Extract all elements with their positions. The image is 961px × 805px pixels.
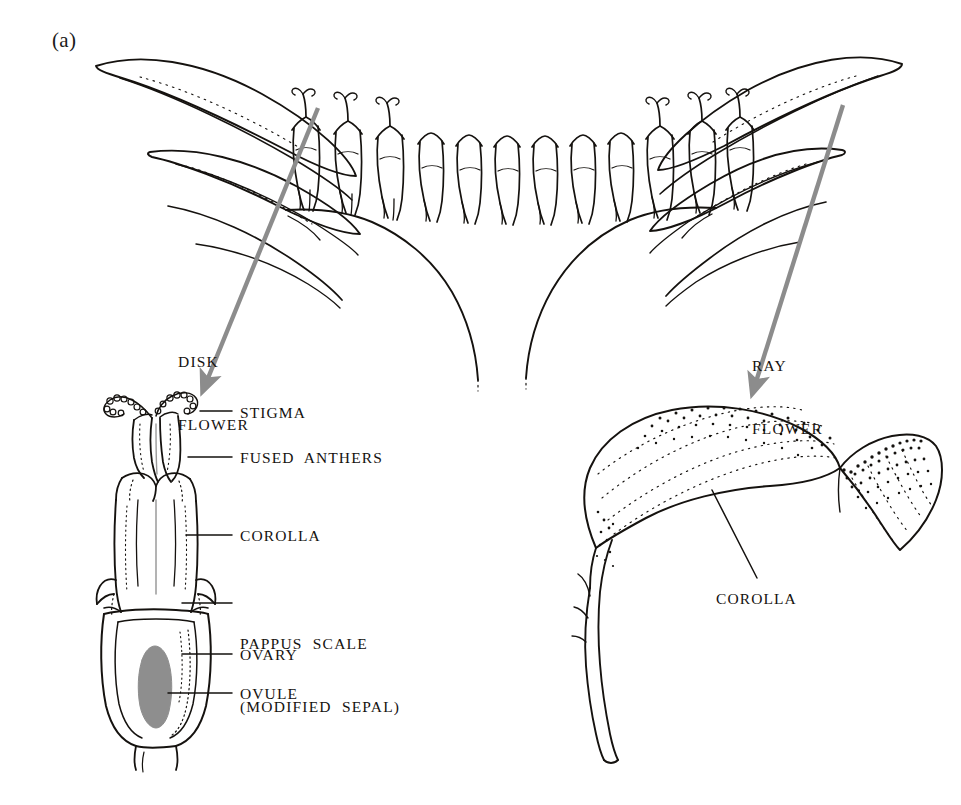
disk-florets-row [292, 88, 754, 225]
detail-peduncle [135, 746, 178, 772]
label-ray-flower-line2: FLOWER [752, 419, 823, 440]
corolla-tube [115, 500, 198, 612]
label-disk-flower-line2: FLOWER [178, 415, 249, 436]
label-disk-flower: DISK FLOWER [178, 310, 249, 477]
leader-corolla-ray [712, 490, 757, 578]
label-corolla-ray: COROLLA [716, 589, 797, 609]
label-pappus-scale: PAPPUS SCALE (MODIFIED SEPAL) [240, 592, 400, 759]
label-stigma: STIGMA [240, 403, 306, 423]
disk-floret-open-4 [646, 97, 674, 220]
label-fused-anthers: FUSED ANTHERS [240, 448, 383, 468]
label-corolla-disk: COROLLA [240, 526, 321, 546]
label-disk-flower-line1: DISK [178, 352, 249, 373]
ovule [138, 646, 171, 728]
panel-letter: (a) [52, 28, 76, 53]
label-ovule: OVULE [240, 684, 298, 704]
pointer-arrow-group [206, 105, 843, 385]
figure-canvas: (a) DISK FLOWER RAY FLOWER STIGMA FUSED … [0, 0, 961, 805]
label-ray-flower: RAY FLOWER [752, 314, 823, 481]
disk-floret-open-5 [688, 92, 716, 215]
receptacle-and-stem [286, 208, 716, 392]
ray-flower-petals-left [96, 59, 360, 308]
label-ray-flower-line1: RAY [752, 356, 823, 377]
fused-anther-tube [133, 412, 181, 482]
disk-floret-closed-group [418, 133, 634, 225]
disk-floret-open-3 [376, 97, 404, 220]
label-ovary: OVARY [240, 645, 298, 665]
